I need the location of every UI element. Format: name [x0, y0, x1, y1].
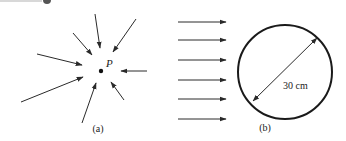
- diagram-canvas: P (a) 30 cm (b): [0, 0, 346, 141]
- arrow-icon-converging-5: [82, 83, 96, 123]
- arrow-icon-converging-4: [21, 77, 83, 102]
- panel-a-converging-rays: P (a): [21, 14, 147, 135]
- panel-b-parallel-beam: 30 cm (b): [178, 22, 332, 134]
- arrow-icon-converging-0: [95, 14, 100, 48]
- arrow-icon-converging-3: [37, 54, 82, 65]
- arrow-icon-converging-6: [111, 82, 124, 100]
- point-p-label: P: [105, 57, 113, 69]
- circular-aperture: [238, 25, 332, 119]
- diameter-label: 30 cm: [283, 80, 308, 91]
- top-cropped-artifact: [0, 0, 51, 4]
- diameter-arrow: [253, 38, 317, 101]
- point-p-dot: [99, 69, 103, 73]
- caption-a: (a): [92, 123, 103, 135]
- converging-arrows: [21, 14, 147, 123]
- arrow-icon-converging-2: [73, 33, 92, 55]
- arrow-icon-converging-1: [113, 19, 136, 52]
- parallel-arrows: [178, 22, 226, 119]
- caption-b: (b): [259, 122, 271, 134]
